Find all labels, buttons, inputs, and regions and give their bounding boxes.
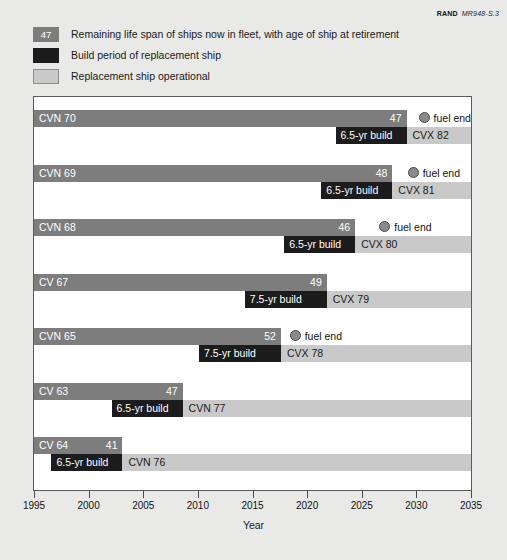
figure-canvas: RANDMR948-S.3 47Remaining life span of s… bbox=[0, 0, 507, 560]
life-span-bar: CVN 6948 bbox=[34, 165, 392, 182]
x-axis: 199520002005201020152020202520302035 bbox=[33, 491, 472, 492]
life-span-swatch: 47 bbox=[33, 27, 59, 42]
replacement-operational-bar: CVX 82 bbox=[407, 127, 471, 144]
ship-name-label: CV 67 bbox=[39, 274, 68, 291]
axis-tick-label: 2020 bbox=[296, 500, 318, 511]
fuel-end-dot-icon bbox=[379, 221, 390, 232]
replacement-operational-bar: CVX 78 bbox=[281, 345, 471, 362]
life-span-bar: CVN 6846 bbox=[34, 219, 355, 236]
fuel-end-label: fuel end bbox=[305, 330, 342, 342]
legend-label: Remaining life span of ships now in flee… bbox=[71, 26, 399, 43]
axis-tick bbox=[471, 491, 472, 498]
legend: 47Remaining life span of ships now in fl… bbox=[33, 26, 473, 89]
axis-tick bbox=[362, 491, 363, 498]
life-span-bar: CV 6347 bbox=[34, 383, 183, 400]
axis-tick bbox=[253, 491, 254, 498]
build-duration-label: 6.5-yr build bbox=[117, 400, 169, 417]
fuel-end-dot-icon bbox=[290, 330, 301, 341]
build-period-swatch bbox=[33, 48, 59, 63]
fuel-end-label: fuel end bbox=[434, 112, 471, 124]
replacement-ship-label: CVN 77 bbox=[189, 400, 226, 417]
ship-name-label: CVN 70 bbox=[39, 110, 76, 127]
replacement-ship-label: CVN 76 bbox=[128, 454, 165, 471]
x-axis-title: Year bbox=[0, 519, 507, 531]
fuel-end-marker: fuel end bbox=[419, 110, 471, 127]
fuel-end-marker: fuel end bbox=[379, 219, 431, 236]
axis-tick bbox=[198, 491, 199, 498]
life-span-bar: CVN 6552 bbox=[34, 328, 281, 345]
age-at-retirement-label: 41 bbox=[106, 437, 118, 454]
legend-row: Build period of replacement ship bbox=[33, 47, 473, 68]
build-period-bar: 6.5-yr build bbox=[51, 454, 122, 471]
build-duration-label: 6.5-yr build bbox=[341, 127, 393, 144]
axis-tick-label: 2005 bbox=[132, 500, 154, 511]
axis-tick bbox=[89, 491, 90, 498]
fuel-end-label: fuel end bbox=[394, 221, 431, 233]
age-at-retirement-label: 48 bbox=[376, 165, 388, 182]
age-at-retirement-label: 47 bbox=[166, 383, 178, 400]
replacement-ship-label: CVX 80 bbox=[361, 236, 397, 253]
build-period-bar: 6.5-yr build bbox=[321, 182, 392, 199]
fuel-end-dot-icon bbox=[419, 112, 430, 123]
ship-name-label: CV 64 bbox=[39, 437, 68, 454]
axis-tick-label: 2030 bbox=[405, 500, 427, 511]
build-duration-label: 7.5-yr build bbox=[204, 345, 256, 362]
rand-org-label: RAND bbox=[437, 10, 458, 17]
replacement-operational-bar: CVX 80 bbox=[355, 236, 471, 253]
replacement-operational-bar: CVN 77 bbox=[183, 400, 471, 417]
legend-row: Replacement ship operational bbox=[33, 68, 473, 89]
life-span-bar: CV 6441 bbox=[34, 437, 122, 454]
ship-name-label: CVN 68 bbox=[39, 219, 76, 236]
legend-age-badge: 47 bbox=[41, 29, 52, 40]
axis-tick bbox=[307, 491, 308, 498]
age-at-retirement-label: 49 bbox=[310, 274, 322, 291]
build-duration-label: 7.5-yr build bbox=[250, 291, 302, 308]
build-duration-label: 6.5-yr build bbox=[289, 236, 341, 253]
rand-report-number: MR948-S.3 bbox=[462, 10, 499, 17]
fuel-end-marker: fuel end bbox=[408, 165, 460, 182]
axis-tick-label: 2010 bbox=[187, 500, 209, 511]
build-period-bar: 7.5-yr build bbox=[199, 345, 281, 362]
fuel-end-label: fuel end bbox=[423, 167, 460, 179]
axis-tick bbox=[416, 491, 417, 498]
build-duration-label: 6.5-yr build bbox=[326, 182, 378, 199]
legend-label: Build period of replacement ship bbox=[71, 47, 221, 64]
axis-tick-label: 2000 bbox=[78, 500, 100, 511]
replacement-ship-label: CVX 82 bbox=[413, 127, 449, 144]
legend-label: Replacement ship operational bbox=[71, 68, 210, 85]
replacement-operational-bar: CVN 76 bbox=[122, 454, 471, 471]
build-period-bar: 6.5-yr build bbox=[112, 400, 183, 417]
replacement-ship-label: CVX 81 bbox=[398, 182, 434, 199]
build-period-bar: 6.5-yr build bbox=[336, 127, 407, 144]
axis-tick bbox=[34, 491, 35, 498]
life-span-bar: CVN 7047 bbox=[34, 110, 407, 127]
axis-tick-label: 2025 bbox=[351, 500, 373, 511]
build-duration-label: 6.5-yr build bbox=[56, 454, 108, 471]
replacement-ship-label: CVX 79 bbox=[333, 291, 369, 308]
legend-row: 47Remaining life span of ships now in fl… bbox=[33, 26, 473, 47]
ship-name-label: CV 63 bbox=[39, 383, 68, 400]
replacement-operational-swatch bbox=[33, 69, 59, 84]
ship-name-label: CVN 69 bbox=[39, 165, 76, 182]
fuel-end-marker: fuel end bbox=[290, 328, 342, 345]
plot-area: CVN 7047fuel endCVX 826.5-yr buildCVN 69… bbox=[33, 96, 472, 491]
life-span-bar: CV 6749 bbox=[34, 274, 327, 291]
fuel-end-dot-icon bbox=[408, 167, 419, 178]
replacement-operational-bar: CVX 81 bbox=[392, 182, 471, 199]
age-at-retirement-label: 47 bbox=[390, 110, 402, 127]
axis-tick-label: 2015 bbox=[241, 500, 263, 511]
ship-name-label: CVN 65 bbox=[39, 328, 76, 345]
build-period-bar: 6.5-yr build bbox=[284, 236, 355, 253]
build-period-bar: 7.5-yr build bbox=[245, 291, 327, 308]
replacement-operational-bar: CVX 79 bbox=[327, 291, 471, 308]
age-at-retirement-label: 46 bbox=[339, 219, 351, 236]
axis-tick-label: 1995 bbox=[23, 500, 45, 511]
axis-tick-label: 2035 bbox=[460, 500, 482, 511]
axis-tick bbox=[143, 491, 144, 498]
age-at-retirement-label: 52 bbox=[264, 328, 276, 345]
rand-credit: RANDMR948-S.3 bbox=[437, 10, 499, 17]
replacement-ship-label: CVX 78 bbox=[287, 345, 323, 362]
